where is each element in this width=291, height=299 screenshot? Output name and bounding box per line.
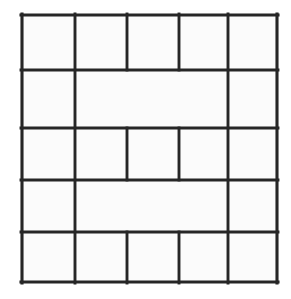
cell-r5c4 (179, 232, 228, 283)
cell-r5c2 (75, 232, 127, 283)
cell-r5c3 (127, 232, 179, 283)
cell-r1c1 (21, 14, 75, 70)
cell-r1c5 (228, 14, 278, 70)
cell-r1c4 (179, 14, 228, 70)
cell-r1c3 (127, 14, 179, 70)
cell-r3c4 (179, 128, 228, 180)
row-3 (21, 128, 278, 180)
cell-r4c1 (21, 180, 75, 232)
cell-r3c1 (21, 128, 75, 180)
figure-root: Brick-bond grid pattern Square outline d… (0, 0, 291, 299)
cell-r3c2 (75, 128, 127, 180)
row-5 (21, 232, 278, 283)
row-1 (21, 14, 278, 70)
cell-r3c5 (228, 128, 278, 180)
cell-r2c1 (21, 70, 75, 128)
cell-r4c2-wide (75, 180, 228, 232)
brick-grid-diagram (0, 0, 291, 299)
cell-r3c3 (127, 128, 179, 180)
cell-r1c2 (75, 14, 127, 70)
cell-r5c5 (228, 232, 278, 283)
cell-r5c1 (21, 232, 75, 283)
cell-r2c3 (228, 70, 278, 128)
row-2 (21, 70, 278, 128)
cell-r4c3 (228, 180, 278, 232)
row-4 (21, 180, 278, 232)
cell-r2c2-wide (75, 70, 228, 128)
